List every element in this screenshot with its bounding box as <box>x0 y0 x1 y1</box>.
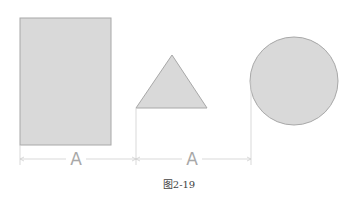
dimension-label-a-1: A <box>70 149 82 169</box>
circle-shape <box>250 37 338 125</box>
figure-caption: 图2-19 <box>0 176 358 191</box>
dimension-label-a-2: A <box>186 149 198 169</box>
triangle-shape <box>136 55 207 108</box>
diagram-canvas: A A <box>0 0 358 199</box>
rectangle-shape <box>20 18 111 145</box>
